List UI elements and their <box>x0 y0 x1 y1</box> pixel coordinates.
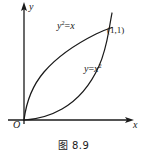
origin-label: O <box>13 120 20 130</box>
curve-label-square-exponent: 2 <box>99 62 102 69</box>
y-axis-label: y <box>29 2 33 12</box>
curve-label-square: y=x2 <box>84 64 102 74</box>
x-axis-label: x <box>133 120 137 130</box>
figure-container: y x O y2=x y=x2 (1,1) 图 8.9 <box>0 0 147 156</box>
figure-caption: 图 8.9 <box>0 137 147 152</box>
intersection-point-label: (1,1) <box>107 26 124 35</box>
curve-label-sqrt: y2=x <box>57 21 75 31</box>
curve-label-sqrt-rhs: x <box>70 20 74 31</box>
